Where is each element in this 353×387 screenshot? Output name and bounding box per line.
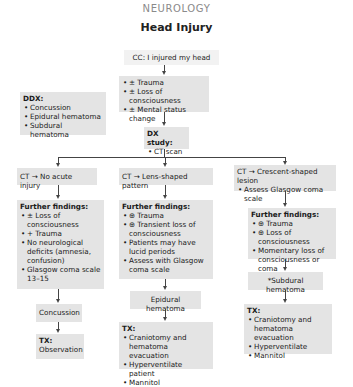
treatment-text: Observation bbox=[39, 345, 83, 354]
branch-connector-line bbox=[58, 157, 286, 158]
findings-title: Further findings: bbox=[122, 202, 210, 211]
arrow-down-icon bbox=[163, 286, 167, 290]
treatment-item: Craniotomy and hematoma evacuation bbox=[247, 315, 329, 342]
findings-box-subdural: Further findings: ⊕ Trauma ⊕ Loss of con… bbox=[248, 208, 336, 259]
ct-result-text: CT → No acute injury bbox=[20, 172, 72, 190]
diagnosis-box-subdural: *Subdural hematoma bbox=[248, 272, 323, 290]
treatment-item: Craniotomy and hematoma evacuation bbox=[122, 333, 210, 360]
treatment-item: Hyperventilate bbox=[247, 342, 329, 351]
ct-result-box-lens: CT → Lens-shaped pattern bbox=[119, 168, 213, 185]
ct-result-text: CT → Lens-shaped pattern bbox=[122, 172, 187, 190]
treatment-title: TX: bbox=[39, 336, 81, 345]
treatment-item: Hyperventilate patient bbox=[122, 360, 210, 378]
findings-title: Further findings: bbox=[20, 202, 101, 211]
finding-item: ⊕ Transient loss of consciousness bbox=[122, 220, 210, 238]
finding-item: ⊕ Loss of consciousness bbox=[251, 228, 333, 246]
finding-item: Momentary loss of consciousness or coma bbox=[251, 246, 333, 273]
finding-item: Patients may have lucid periods bbox=[122, 238, 210, 256]
arrow-down-icon bbox=[56, 195, 60, 199]
arrow-down-icon bbox=[56, 299, 60, 303]
arrow-down-icon bbox=[162, 122, 166, 126]
treatment-title: TX: bbox=[247, 306, 329, 315]
treatment-item: Mannitol bbox=[122, 378, 210, 387]
arrow-down-icon bbox=[162, 71, 166, 75]
page-title: Head Injury bbox=[0, 21, 353, 34]
diagnosis-box-epidural: Epidural hematoma bbox=[130, 291, 201, 309]
presentation-item: ± Loss of consciousness bbox=[122, 87, 206, 105]
dx-study-box: DX study: CT scan bbox=[144, 127, 189, 149]
diagnosis-text: Concussion bbox=[39, 308, 80, 317]
chief-complaint-text: CC: I injured my head bbox=[133, 53, 211, 62]
chief-complaint-box: CC: I injured my head bbox=[124, 50, 219, 65]
finding-item: ⊕ Trauma bbox=[251, 219, 333, 228]
ct-result-text: CT → Crescent-shaped lesion bbox=[237, 167, 333, 185]
arrow-down-icon bbox=[283, 299, 287, 303]
ddx-box: DDX: Concussion Epidural hematoma Subdur… bbox=[20, 92, 106, 135]
ddx-title: DDX: bbox=[23, 94, 103, 103]
presentation-item: ± Trauma bbox=[122, 78, 206, 87]
finding-item: + Trauma bbox=[20, 229, 101, 238]
finding-item: No neurological deficits (amnesia, confu… bbox=[20, 238, 101, 265]
ct-result-box-crescent: CT → Crescent-shaped lesion Assess Glasg… bbox=[234, 165, 336, 191]
arrow-down-icon bbox=[163, 195, 167, 199]
treatment-box-subdural: TX: Craniotomy and hematoma evacuation H… bbox=[244, 304, 332, 354]
treatment-item: Mannitol bbox=[247, 351, 329, 360]
dx-study-title: DX study: bbox=[147, 129, 186, 147]
dx-study-item: CT scan bbox=[147, 147, 186, 156]
finding-item: Glasgow coma scale 13–15 bbox=[20, 265, 101, 283]
arrow-down-icon bbox=[56, 329, 60, 333]
ddx-item: Subdural hematoma bbox=[23, 121, 103, 139]
arrow-down-icon bbox=[163, 317, 167, 321]
finding-item: ⊕ Trauma bbox=[122, 211, 210, 220]
treatment-box-concussion: TX: Observation bbox=[36, 334, 84, 359]
findings-box-concussion: Further findings: ± Loss of consciousnes… bbox=[17, 200, 104, 289]
ct-result-box-no-injury: CT → No acute injury bbox=[17, 168, 97, 185]
treatment-title: TX: bbox=[122, 324, 210, 333]
section-header: NEUROLOGY bbox=[0, 3, 353, 14]
ddx-item: Epidural hematoma bbox=[23, 112, 103, 121]
finding-item: Assess with Glasgow coma scale bbox=[122, 256, 210, 274]
ddx-item: Concussion bbox=[23, 103, 103, 112]
arrow-down-icon bbox=[283, 267, 287, 271]
presentation-box: ± Trauma ± Loss of consciousness ± Menta… bbox=[119, 76, 209, 112]
findings-title: Further findings: bbox=[251, 210, 333, 219]
findings-box-epidural: Further findings: ⊕ Trauma ⊕ Transient l… bbox=[119, 200, 213, 279]
finding-item: ± Loss of consciousness bbox=[20, 211, 101, 229]
connector-line bbox=[164, 149, 165, 157]
arrow-down-icon bbox=[56, 163, 60, 167]
treatment-box-epidural: TX: Craniotomy and hematoma evacuation H… bbox=[119, 322, 213, 369]
diagnosis-box-concussion: Concussion bbox=[36, 304, 82, 322]
arrow-down-icon bbox=[283, 203, 287, 207]
arrow-down-icon bbox=[163, 163, 167, 167]
